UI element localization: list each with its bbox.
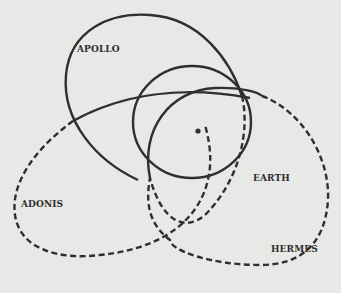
label-hermes: HERMES	[271, 244, 318, 254]
label-earth: EARTH	[253, 173, 290, 183]
sun-dot	[195, 128, 200, 133]
earth-orbit	[133, 66, 251, 178]
label-apollo: APOLLO	[77, 44, 120, 54]
label-adonis: ADONIS	[21, 199, 63, 209]
